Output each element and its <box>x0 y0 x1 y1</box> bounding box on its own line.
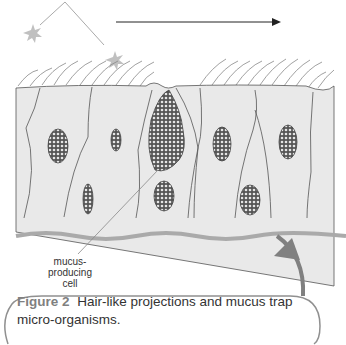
label-line: producing <box>40 267 100 278</box>
figure-number: Figure 2 <box>17 294 70 309</box>
label-line: cell <box>40 278 100 289</box>
figure-caption: Figure 2 Hair-like projections and mucus… <box>17 293 317 329</box>
mucus-cell-label: mucus- producing cell <box>40 256 100 289</box>
label-line: mucus- <box>40 256 100 267</box>
direction-arrow-icon <box>116 18 281 26</box>
particle-path <box>40 2 104 45</box>
cilia <box>18 59 334 88</box>
